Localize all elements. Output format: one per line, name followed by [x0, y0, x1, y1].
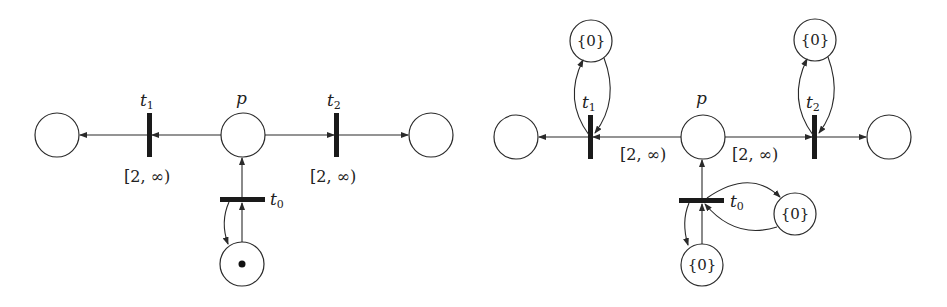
clock-label-t2: {0}: [801, 31, 830, 49]
arc-clock-to-t1: [595, 58, 610, 133]
left-interval-t1: [2, ∞): [124, 167, 170, 186]
clock-label-t0-right: {0}: [781, 205, 810, 223]
left-place-p: [221, 113, 265, 157]
left-transition-t1: [147, 113, 152, 157]
arc-clock-to-t2: [819, 57, 834, 133]
right-output-place-2: [867, 115, 911, 159]
right-label-t0: t0: [730, 191, 744, 213]
right-label-t1: t1: [582, 92, 596, 114]
left-interval-t2: [2, ∞): [310, 167, 356, 186]
right-label-p: p: [696, 88, 707, 108]
interval-arc-p-t2: [2, ∞): [732, 145, 778, 164]
petri-net-diagram: p t1 t2 t0 [2, ∞) [2, ∞): [0, 0, 947, 307]
right-label-t2: t2: [806, 92, 820, 114]
arc-t0-to-bottom-clock: [685, 203, 689, 245]
right-petri-net: p t1 t2 t0 [2, ∞) [2, ∞) {0} {0} {0} {0}: [494, 19, 911, 286]
left-label-p: p: [236, 88, 247, 108]
right-place-p: [681, 115, 725, 159]
left-output-place-1: [35, 113, 79, 157]
clock-label-t0-bottom: {0}: [688, 256, 717, 274]
arc-t0-to-right-clock: [707, 183, 780, 198]
left-label-t0: t0: [270, 189, 284, 211]
right-transition-t2: [812, 115, 817, 159]
interval-arc-p-t1: [2, ∞): [620, 145, 666, 164]
left-label-t2: t2: [327, 90, 341, 112]
left-transition-t0: [220, 197, 265, 202]
right-transition-t1: [588, 115, 593, 159]
left-label-t1: t1: [140, 90, 154, 112]
clock-label-t1: {0}: [577, 32, 606, 50]
left-petri-net: p t1 t2 t0 [2, ∞) [2, ∞): [35, 88, 453, 286]
left-transition-t2: [334, 113, 339, 157]
token-icon: [239, 261, 246, 268]
right-transition-t0: [679, 198, 724, 203]
right-output-place-1: [494, 115, 538, 159]
arc-t0-to-source: [224, 202, 229, 244]
left-output-place-2: [409, 113, 453, 157]
